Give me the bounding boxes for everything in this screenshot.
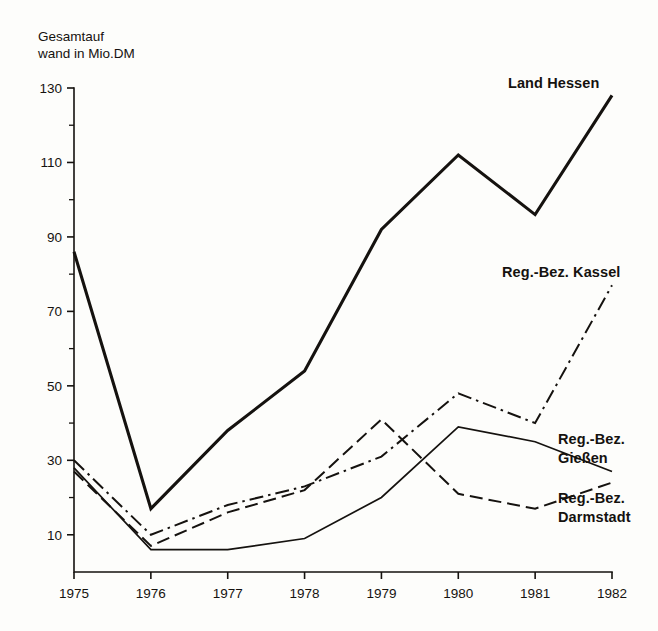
y-tick-label: 130	[39, 81, 62, 96]
y-axis-title-line1: Gesamtauf­	[38, 29, 104, 44]
y-axis-ticks: 1301109070503010	[39, 81, 74, 543]
x-tick-label: 1976	[136, 586, 166, 601]
axes	[74, 88, 612, 572]
x-tick-label: 1980	[443, 586, 473, 601]
x-tick-label: 1978	[290, 586, 320, 601]
x-tick-label: 1979	[366, 586, 396, 601]
series-line-reg-bez-giessen	[74, 427, 612, 550]
series-line-reg-bez-darmstadt	[74, 419, 612, 546]
series-line-reg-bez-kassel	[74, 285, 612, 535]
x-tick-label: 1982	[597, 586, 627, 601]
line-chart-svg: Gesamtauf­ wand in Mio.DM 13011090705030…	[0, 0, 658, 631]
y-axis-title-line2: wand in Mio.DM	[37, 46, 135, 61]
y-tick-label: 90	[47, 230, 62, 245]
y-tick-label: 10	[47, 528, 62, 543]
axis-lines	[74, 88, 612, 572]
series-label-reg-bez-darmstadt-line1: Reg.-Bez.	[558, 490, 625, 506]
x-tick-label: 1977	[213, 586, 243, 601]
x-tick-label: 1975	[59, 586, 89, 601]
x-tick-label: 1981	[520, 586, 550, 601]
series-label-reg-bez-giessen-line1: Reg.-Bez.	[558, 431, 625, 447]
chart-container: Gesamtauf­ wand in Mio.DM 13011090705030…	[0, 0, 658, 631]
series-label-reg-bez-darmstadt-line2: Darmstadt	[558, 509, 631, 525]
series-label-land-hessen: Land Hessen	[508, 75, 599, 91]
y-tick-label: 110	[40, 155, 62, 170]
series-label-reg-bez-giessen-line2: Gießen	[558, 450, 608, 466]
y-tick-label: 50	[47, 379, 62, 394]
y-tick-label: 30	[47, 453, 62, 468]
y-tick-label: 70	[47, 304, 62, 319]
x-axis-ticks: 19751976197719781979198019811982	[59, 572, 627, 601]
series-label-reg-bez-kassel: Reg.-Bez. Kassel	[502, 264, 620, 280]
series-line-land-hessen	[74, 95, 612, 508]
